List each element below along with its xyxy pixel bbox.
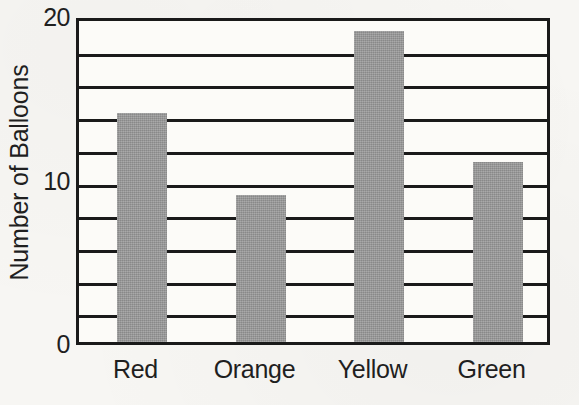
x-axis-label-yellow: Yellow	[313, 352, 432, 386]
x-axis-label-orange: Orange	[195, 352, 314, 386]
x-axis-label-green: Green	[432, 352, 551, 386]
plot-area	[76, 18, 550, 345]
bar-series	[79, 21, 547, 342]
bar-green	[473, 162, 523, 342]
y-axis-tick-label: 20	[28, 5, 70, 30]
bar-red	[117, 113, 167, 342]
bar-orange	[236, 195, 286, 342]
x-axis-tick-labels: RedOrangeYellowGreen	[76, 352, 550, 388]
y-axis-tick-label: 0	[28, 332, 70, 357]
x-axis-label-red: Red	[76, 352, 195, 386]
chart-page: Number of Balloons 01020 RedOrangeYellow…	[0, 0, 579, 405]
y-axis-tick-label: 10	[28, 169, 70, 194]
bar-yellow	[354, 31, 404, 342]
y-axis-tick-labels: 01020	[24, 0, 70, 405]
